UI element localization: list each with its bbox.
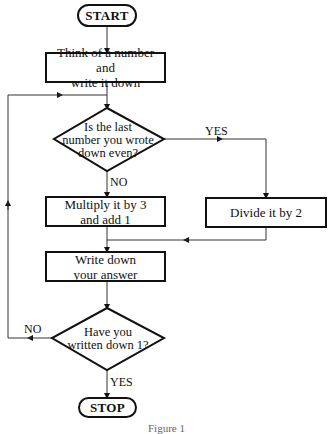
step-think-line1: Think of a number and	[47, 45, 164, 75]
step-divide-label: Divide it by 2	[230, 205, 302, 220]
edge-label-even-no: NO	[110, 175, 127, 190]
step-write-line2: your answer	[74, 267, 138, 282]
step-write-line1: Write down	[75, 252, 136, 267]
decision-even-line3: down even?	[78, 147, 138, 160]
step-think-of-number: Think of a number and write it down	[45, 52, 166, 83]
decision-one-line2: written down 1?	[67, 339, 148, 352]
step-divide: Divide it by 2	[205, 197, 327, 228]
decision-even: Is the last number you wrote down even?	[60, 122, 156, 158]
step-multiply-line2: and add 1	[80, 212, 131, 227]
decision-even-line1: Is the last	[84, 121, 132, 134]
step-multiply: Multiply it by 3 and add 1	[45, 196, 166, 227]
stop-label: STOP	[90, 400, 125, 415]
stop-terminal: STOP	[78, 397, 137, 418]
figure-caption: Figure 1	[148, 422, 185, 434]
step-write-answer: Write down your answer	[45, 251, 166, 282]
decision-even-line2: number you wrote	[62, 134, 154, 147]
step-think-line2: write it down	[71, 75, 140, 90]
edge-label-one-yes: YES	[110, 375, 133, 390]
decision-written-one: Have you written down 1?	[62, 326, 154, 352]
start-terminal: START	[77, 4, 137, 27]
edge-label-even-yes: YES	[205, 124, 228, 139]
step-multiply-line1: Multiply it by 3	[65, 197, 147, 212]
start-label: START	[85, 8, 128, 23]
edge-label-one-no: NO	[24, 322, 41, 337]
